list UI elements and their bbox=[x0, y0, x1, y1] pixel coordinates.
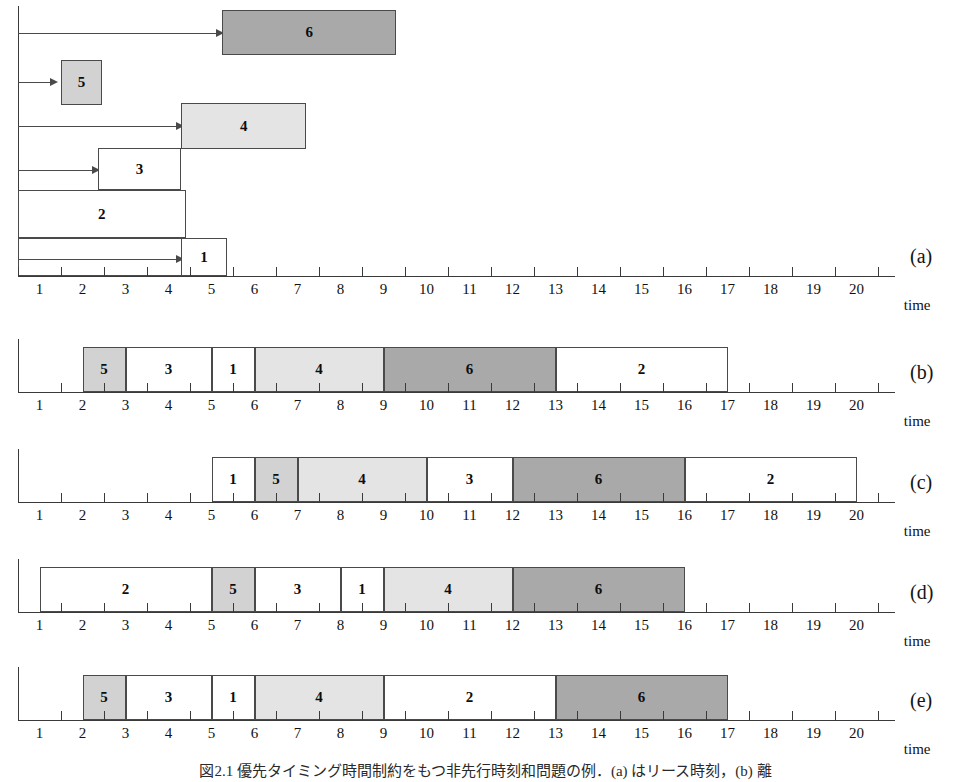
axis-tick-13-4 bbox=[577, 711, 578, 720]
axis-tick-label-13-3: 13 bbox=[541, 618, 571, 633]
axis-tick-label-12-3: 12 bbox=[498, 618, 528, 633]
axis-tick-label-15-3: 15 bbox=[627, 618, 657, 633]
axis-tick-12-0 bbox=[534, 267, 535, 276]
axis-tick-label-9-3: 9 bbox=[369, 618, 399, 633]
axis-tick-15-4 bbox=[663, 711, 664, 720]
axis-tick-16-4 bbox=[706, 711, 707, 720]
axis-tick-label-14-0: 14 bbox=[584, 282, 614, 297]
axis-tick-12-1 bbox=[534, 383, 535, 392]
axis-tick-label-10-4: 10 bbox=[412, 726, 442, 741]
axis-tick-0-4 bbox=[18, 711, 19, 720]
task-block-d-2: 2 bbox=[40, 567, 212, 612]
axis-tick-label-10-0: 10 bbox=[412, 282, 442, 297]
axis-tick-label-15-4: 15 bbox=[627, 726, 657, 741]
axis-tick-8-2 bbox=[362, 493, 363, 502]
axis-tick-label-20-2: 20 bbox=[842, 508, 872, 523]
axis-tick-label-3-4: 3 bbox=[111, 726, 141, 741]
task-block-e-3: 3 bbox=[126, 675, 212, 720]
axis-tick-label-3-2: 3 bbox=[111, 508, 141, 523]
axis-tick-label-17-0: 17 bbox=[713, 282, 743, 297]
axis-tick-label-16-2: 16 bbox=[670, 508, 700, 523]
axis-tick-20-2 bbox=[878, 493, 879, 502]
release-arrow-task-3 bbox=[18, 170, 92, 171]
axis-tick-label-9-0: 9 bbox=[369, 282, 399, 297]
axis-tick-10-4 bbox=[448, 711, 449, 720]
axis-tick-label-18-4: 18 bbox=[756, 726, 786, 741]
axis-tick-label-1-2: 1 bbox=[25, 508, 55, 523]
axis-tick-8-3 bbox=[362, 603, 363, 612]
task-block-a-4: 4 bbox=[181, 103, 306, 149]
axis-tick-16-3 bbox=[706, 603, 707, 612]
task-block-d-6: 6 bbox=[513, 567, 685, 612]
axis-tick-label-6-1: 6 bbox=[240, 398, 270, 413]
axis-tick-label-7-1: 7 bbox=[283, 398, 313, 413]
task-block-b-2: 2 bbox=[556, 347, 728, 392]
axis-tick-label-15-1: 15 bbox=[627, 398, 657, 413]
axis-tick-8-1 bbox=[362, 383, 363, 392]
axis-tick-8-0 bbox=[362, 267, 363, 276]
time-axis-label-1: time bbox=[904, 414, 931, 429]
axis-tick-label-19-4: 19 bbox=[799, 726, 829, 741]
axis-tick-7-1 bbox=[319, 383, 320, 392]
axis-tick-17-1 bbox=[749, 383, 750, 392]
axis-tick-2-3 bbox=[104, 603, 105, 612]
axis-tick-17-3 bbox=[749, 603, 750, 612]
axis-tick-label-10-3: 10 bbox=[412, 618, 442, 633]
release-arrow-task-4 bbox=[18, 126, 176, 127]
task-block-c-6: 6 bbox=[513, 457, 685, 502]
axis-tick-8-4 bbox=[362, 711, 363, 720]
axis-tick-5-4 bbox=[233, 711, 234, 720]
axis-tick-11-0 bbox=[491, 267, 492, 276]
time-axis-1 bbox=[18, 392, 895, 393]
scheduling-figure: (a)(b)(c)(d)(e)6543211234567891011121314… bbox=[0, 0, 971, 782]
axis-tick-13-3 bbox=[577, 603, 578, 612]
axis-tick-label-9-2: 9 bbox=[369, 508, 399, 523]
axis-tick-3-0 bbox=[147, 267, 148, 276]
axis-tick-label-20-1: 20 bbox=[842, 398, 872, 413]
axis-tick-label-12-1: 12 bbox=[498, 398, 528, 413]
axis-tick-0-2 bbox=[18, 493, 19, 502]
axis-tick-label-8-0: 8 bbox=[326, 282, 356, 297]
axis-tick-14-2 bbox=[620, 493, 621, 502]
axis-tick-10-3 bbox=[448, 603, 449, 612]
axis-tick-20-0 bbox=[878, 267, 879, 276]
axis-tick-label-19-0: 19 bbox=[799, 282, 829, 297]
release-arrow-head-task-5 bbox=[50, 78, 58, 86]
axis-tick-5-2 bbox=[233, 493, 234, 502]
axis-tick-20-4 bbox=[878, 711, 879, 720]
axis-tick-4-1 bbox=[190, 383, 191, 392]
axis-tick-label-6-2: 6 bbox=[240, 508, 270, 523]
panel-letter-b: (b) bbox=[910, 362, 933, 382]
axis-tick-label-14-1: 14 bbox=[584, 398, 614, 413]
axis-tick-12-4 bbox=[534, 711, 535, 720]
axis-tick-11-3 bbox=[491, 603, 492, 612]
axis-tick-18-3 bbox=[792, 603, 793, 612]
axis-tick-4-3 bbox=[190, 603, 191, 612]
axis-tick-1-2 bbox=[61, 493, 62, 502]
axis-tick-label-1-4: 1 bbox=[25, 726, 55, 741]
axis-tick-10-1 bbox=[448, 383, 449, 392]
axis-tick-label-13-4: 13 bbox=[541, 726, 571, 741]
panel-letter-d: (d) bbox=[910, 582, 933, 602]
axis-tick-label-19-2: 19 bbox=[799, 508, 829, 523]
axis-tick-17-2 bbox=[749, 493, 750, 502]
axis-tick-label-8-2: 8 bbox=[326, 508, 356, 523]
axis-tick-label-17-2: 17 bbox=[713, 508, 743, 523]
axis-tick-15-1 bbox=[663, 383, 664, 392]
axis-tick-label-11-2: 11 bbox=[455, 508, 485, 523]
axis-tick-5-3 bbox=[233, 603, 234, 612]
axis-tick-18-0 bbox=[792, 267, 793, 276]
axis-tick-label-6-0: 6 bbox=[240, 282, 270, 297]
axis-tick-10-0 bbox=[448, 267, 449, 276]
task-block-d-3: 3 bbox=[255, 567, 341, 612]
axis-tick-label-5-2: 5 bbox=[197, 508, 227, 523]
axis-tick-label-6-4: 6 bbox=[240, 726, 270, 741]
axis-tick-9-2 bbox=[405, 493, 406, 502]
axis-tick-14-3 bbox=[620, 603, 621, 612]
axis-tick-label-8-1: 8 bbox=[326, 398, 356, 413]
axis-tick-4-2 bbox=[190, 493, 191, 502]
axis-tick-label-18-0: 18 bbox=[756, 282, 786, 297]
axis-tick-label-10-1: 10 bbox=[412, 398, 442, 413]
time-axis-label-0: time bbox=[904, 298, 931, 313]
axis-tick-19-2 bbox=[835, 493, 836, 502]
